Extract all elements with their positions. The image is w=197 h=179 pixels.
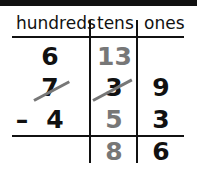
header-tens: tens — [97, 13, 134, 33]
top-border — [0, 0, 197, 6]
subtrahend-tens-digit: 5 — [99, 106, 129, 134]
regroup-hundreds-digit: 6 — [35, 43, 65, 71]
minuend-ones-digit: 9 — [146, 74, 176, 102]
difference-tens-digit: 8 — [99, 138, 129, 166]
subtrahend-hundreds-digit: 4 — [40, 106, 70, 134]
header-hundreds: hundreds — [16, 13, 96, 33]
header-ones: ones — [144, 13, 185, 33]
regroup-tens-digit: 13 — [97, 43, 131, 71]
header-underline — [12, 36, 184, 38]
column-divider-hundreds-tens — [89, 20, 91, 163]
minus-sign: – — [12, 106, 32, 134]
subtrahend-ones-digit: 3 — [146, 106, 176, 134]
difference-ones-digit: 6 — [146, 138, 176, 166]
column-divider-tens-ones — [136, 20, 138, 163]
